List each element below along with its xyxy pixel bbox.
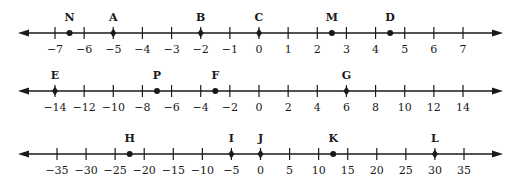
tick-label: 8 [372, 101, 379, 114]
tick-label: 30 [428, 164, 442, 177]
point-marker-diamond-icon [432, 150, 438, 159]
tick-label: −2 [193, 43, 209, 56]
tick-label: 0 [256, 101, 263, 114]
point-label-n: N [65, 11, 75, 24]
tick-label: −5 [223, 164, 239, 177]
point-marker-diamond-icon [343, 87, 349, 96]
tick-label: 0 [256, 43, 263, 56]
tick-label: −14 [43, 101, 66, 114]
point-label-h: H [124, 132, 134, 145]
tick-label: 5 [286, 164, 293, 177]
tick-label: −5 [105, 43, 121, 56]
point-label-j: J [257, 132, 263, 145]
point-marker-diamond-icon [256, 29, 262, 38]
point-label-e: E [51, 69, 59, 82]
tick-label: −2 [222, 101, 238, 114]
point-marker-diamond-icon [52, 87, 58, 96]
point-marker-dot-icon [154, 88, 160, 94]
point-label-p: P [153, 69, 161, 82]
tick-label: 3 [343, 43, 350, 56]
tick-label: 4 [314, 101, 321, 114]
point-label-m: M [326, 11, 338, 24]
tick-label: −30 [74, 164, 97, 177]
arrow-right-icon [492, 151, 503, 158]
point-marker-dot-icon [330, 151, 336, 157]
tick-label: −3 [163, 43, 179, 56]
tick-label: 4 [372, 43, 379, 56]
tick-label: −15 [162, 164, 185, 177]
point-marker-dot-icon [67, 30, 73, 36]
line-3: −35−30−25−20−15−10−505101520253035HIJKL [18, 132, 503, 177]
arrow-right-icon [492, 88, 503, 95]
point-label-d: D [385, 11, 395, 24]
tick-label: −6 [76, 43, 92, 56]
line-2: −14−12−10−8−6−4−202468101214EPFG [18, 69, 503, 114]
tick-label: 5 [401, 43, 408, 56]
point-marker-dot-icon [387, 30, 393, 36]
tick-label: 7 [460, 43, 467, 56]
tick-label: 2 [314, 43, 321, 56]
arrow-right-icon [492, 30, 503, 37]
tick-label: 35 [457, 164, 471, 177]
tick-label: 0 [257, 164, 264, 177]
tick-label: −20 [133, 164, 156, 177]
tick-label: −35 [45, 164, 68, 177]
tick-label: −4 [193, 101, 209, 114]
tick-label: 10 [312, 164, 326, 177]
point-label-k: K [328, 132, 338, 145]
tick-label: −8 [134, 101, 150, 114]
tick-label: −6 [163, 101, 179, 114]
arrow-left-icon [18, 88, 29, 95]
point-marker-diamond-icon [198, 29, 204, 38]
line-1: −7−6−5−4−3−2−101234567NABCMD [18, 11, 503, 56]
point-label-c: C [255, 11, 264, 24]
tick-label: 14 [456, 101, 470, 114]
tick-label: 10 [398, 101, 412, 114]
point-label-b: B [196, 11, 205, 24]
arrow-left-icon [18, 30, 29, 37]
point-label-l: L [431, 132, 439, 145]
tick-label: 2 [285, 101, 292, 114]
tick-label: −4 [134, 43, 150, 56]
tick-label: 1 [285, 43, 292, 56]
point-marker-diamond-icon [228, 150, 234, 159]
tick-label: 15 [341, 164, 355, 177]
tick-label: 12 [427, 101, 441, 114]
point-marker-diamond-icon [258, 150, 264, 159]
point-label-g: G [342, 69, 351, 82]
tick-label: 6 [343, 101, 350, 114]
tick-label: −10 [102, 101, 125, 114]
point-marker-dot-icon [212, 88, 218, 94]
tick-label: −10 [191, 164, 214, 177]
tick-label: 25 [399, 164, 413, 177]
number-line-figure: −7−6−5−4−3−2−101234567NABCMD−14−12−10−8−… [0, 0, 518, 184]
point-label-f: F [211, 69, 219, 82]
tick-label: −25 [104, 164, 127, 177]
arrow-left-icon [18, 151, 29, 158]
point-marker-dot-icon [329, 30, 335, 36]
point-label-a: A [108, 11, 118, 24]
tick-label: −12 [73, 101, 96, 114]
number-lines-svg: −7−6−5−4−3−2−101234567NABCMD−14−12−10−8−… [0, 0, 518, 184]
point-label-i: I [229, 132, 234, 145]
tick-label: −7 [47, 43, 63, 56]
tick-label: 6 [430, 43, 437, 56]
point-marker-dot-icon [127, 151, 133, 157]
point-marker-diamond-icon [110, 29, 116, 38]
tick-label: −1 [222, 43, 238, 56]
tick-label: 20 [370, 164, 384, 177]
